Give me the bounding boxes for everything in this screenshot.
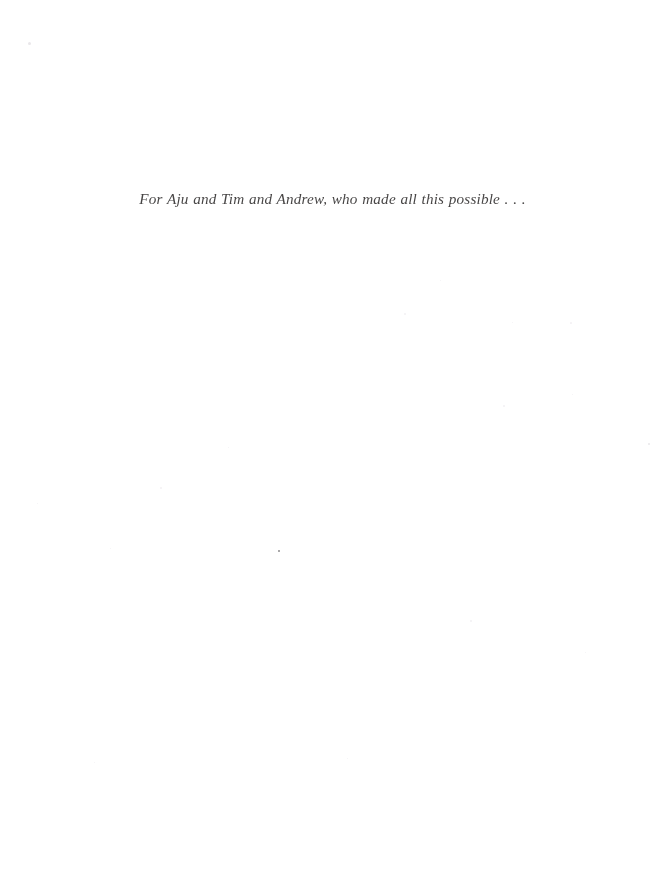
scan-speck [440,280,441,281]
scan-speck [470,620,472,622]
scan-speck [503,405,505,407]
dedication-page: For Aju and Tim and Andrew, who made all… [0,0,665,881]
scan-speck [570,322,572,324]
dedication-block: For Aju and Tim and Andrew, who made all… [0,189,665,209]
scan-speck [404,313,406,315]
scan-speck [37,503,38,504]
scan-speck [110,548,111,549]
scan-speck [278,550,280,552]
scan-speck [160,487,162,489]
dedication-text: For Aju and Tim and Andrew, who made all… [139,189,525,209]
scan-speck [585,652,586,653]
scan-speck [94,762,95,763]
scan-speck [648,443,650,445]
scan-speck [512,322,513,323]
scan-speck [347,758,348,759]
scan-speck [572,394,573,395]
scan-speck [228,447,229,448]
scan-noise-layer [0,0,665,881]
scan-speck [28,42,31,45]
